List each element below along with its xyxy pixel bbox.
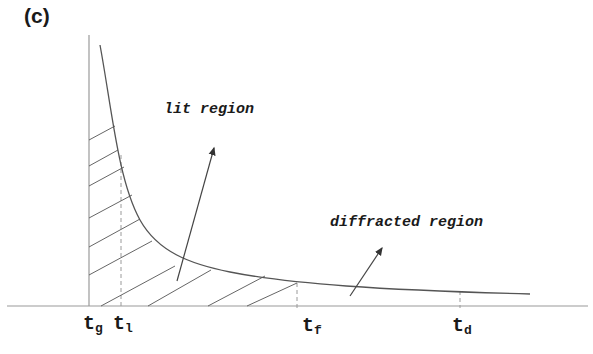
lit-region-label: lit region (164, 101, 254, 118)
intensity-curve (100, 45, 530, 294)
lit-region-arrow (177, 148, 214, 281)
decay-curve-diagram (0, 0, 593, 354)
tick-label-t-l: tl (113, 312, 133, 336)
tick-label-t-f: tf (302, 314, 322, 338)
diffracted-region-arrow (350, 248, 382, 296)
diffracted-region-label: diffracted region (330, 214, 483, 231)
tick-label-t-d: td (452, 314, 472, 338)
hatching (89, 126, 297, 306)
tick-label-t-g: tg (83, 312, 103, 336)
